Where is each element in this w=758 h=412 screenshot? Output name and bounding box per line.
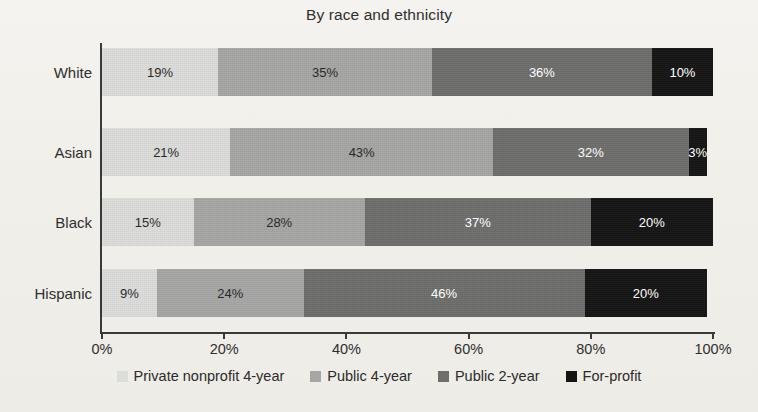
- x-axis-line: [100, 332, 715, 334]
- bar-segment-black-public-4-year[interactable]: 28%: [194, 198, 365, 246]
- bar-segment-value-label: 21%: [153, 145, 179, 160]
- category-label-black: Black: [0, 215, 92, 230]
- category-label-asian: Asian: [0, 145, 92, 160]
- bar-segment-asian-for-profit[interactable]: 3%: [689, 128, 707, 176]
- bar-segment-white-public-4-year[interactable]: 35%: [218, 48, 432, 96]
- bar-segment-asian-public-2-year[interactable]: 32%: [493, 128, 689, 176]
- x-axis-tick-mark: [590, 332, 592, 339]
- x-axis-tick-mark: [101, 332, 103, 339]
- x-axis-tick-label-80: 80%: [576, 341, 605, 357]
- bar-segment-value-label: 24%: [217, 286, 243, 301]
- x-axis-tick-label-60: 60%: [454, 341, 483, 357]
- bar-segment-value-label: 19%: [147, 65, 173, 80]
- x-axis-tick-label-20: 20%: [210, 341, 239, 357]
- bar-row-asian: 21%43%32%3%: [102, 128, 713, 176]
- chart-container: By race and ethnicity WhiteAsianBlackHis…: [0, 0, 758, 412]
- bar-segment-white-private-nonprofit-4-year[interactable]: 19%: [102, 48, 218, 96]
- bar-row-black: 15%28%37%20%: [102, 198, 713, 246]
- legend-swatch-icon: [566, 371, 577, 382]
- legend-label: Public 4-year: [327, 368, 412, 384]
- bar-segment-white-public-2-year[interactable]: 36%: [432, 48, 652, 96]
- x-axis-tick-mark: [468, 332, 470, 339]
- bar-segment-value-label: 20%: [633, 286, 659, 301]
- x-axis-tick-label-0: 0%: [92, 341, 113, 357]
- bar-segment-asian-private-nonprofit-4-year[interactable]: 21%: [102, 128, 230, 176]
- category-label-hispanic: Hispanic: [0, 286, 92, 301]
- bar-segment-value-label: 35%: [312, 65, 338, 80]
- bar-segment-black-for-profit[interactable]: 20%: [591, 198, 713, 246]
- legend-item-public-4-year[interactable]: Public 4-year: [310, 368, 412, 384]
- bar-segment-value-label: 46%: [431, 286, 457, 301]
- bar-segment-value-label: 28%: [266, 215, 292, 230]
- legend-item-public-2-year[interactable]: Public 2-year: [438, 368, 540, 384]
- legend-swatch-icon: [117, 371, 128, 382]
- legend-swatch-icon: [310, 371, 321, 382]
- bar-segment-value-label: 37%: [465, 215, 491, 230]
- bar-segment-value-label: 3%: [688, 145, 707, 160]
- bar-segment-hispanic-public-4-year[interactable]: 24%: [157, 269, 304, 317]
- bar-segment-value-label: 10%: [669, 65, 695, 80]
- legend-swatch-icon: [438, 371, 449, 382]
- bar-segment-value-label: 20%: [639, 215, 665, 230]
- bar-segment-hispanic-public-2-year[interactable]: 46%: [304, 269, 585, 317]
- bar-segment-hispanic-private-nonprofit-4-year[interactable]: 9%: [102, 269, 157, 317]
- legend-item-for-profit[interactable]: For-profit: [566, 368, 642, 384]
- legend-label: Private nonprofit 4-year: [134, 368, 285, 384]
- bar-segment-black-public-2-year[interactable]: 37%: [365, 198, 591, 246]
- category-label-white: White: [0, 65, 92, 80]
- x-axis-tick-mark: [345, 332, 347, 339]
- bar-row-hispanic: 9%24%46%20%: [102, 269, 713, 317]
- x-axis-tick-label-100: 100%: [694, 341, 731, 357]
- x-axis-tick-mark: [712, 332, 714, 339]
- bar-segment-white-for-profit[interactable]: 10%: [652, 48, 713, 96]
- x-axis-tick-mark: [223, 332, 225, 339]
- bar-segment-asian-public-4-year[interactable]: 43%: [230, 128, 493, 176]
- bar-segment-hispanic-for-profit[interactable]: 20%: [585, 269, 707, 317]
- x-axis-tick-label-40: 40%: [332, 341, 361, 357]
- bar-segment-value-label: 36%: [529, 65, 555, 80]
- legend-label: For-profit: [583, 368, 642, 384]
- bar-segment-value-label: 32%: [578, 145, 604, 160]
- legend-item-private-nonprofit-4-year[interactable]: Private nonprofit 4-year: [117, 368, 285, 384]
- bar-segment-value-label: 15%: [135, 215, 161, 230]
- bar-segment-value-label: 9%: [120, 286, 139, 301]
- legend-label: Public 2-year: [455, 368, 540, 384]
- bar-row-white: 19%35%36%10%: [102, 48, 713, 96]
- bar-segment-black-private-nonprofit-4-year[interactable]: 15%: [102, 198, 194, 246]
- chart-title: By race and ethnicity: [0, 6, 758, 24]
- chart-legend: Private nonprofit 4-yearPublic 4-yearPub…: [0, 368, 758, 384]
- bar-segment-value-label: 43%: [349, 145, 375, 160]
